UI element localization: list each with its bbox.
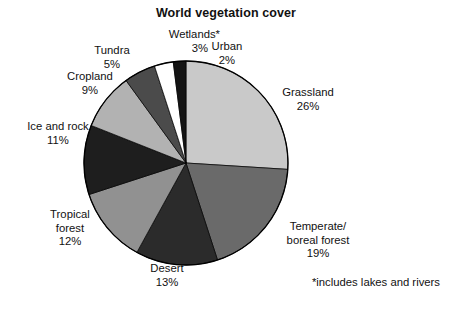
slice-label-cropland-name: Cropland [52,70,128,84]
footnote: *includes lakes and rivers [312,276,440,288]
slice-label-ice-and-rock-name: Ice and rock [8,120,108,134]
slice-label-tropical-forest-line2: forest [28,222,112,236]
slice-label-tundra-name: Tundra [82,44,142,58]
slice-label-tropical-forest-line1: Tropical [28,208,112,222]
pie-slice-grassland[interactable] [186,61,288,169]
slice-label-tundra: Tundra 5% [82,44,142,71]
slice-label-tropical-forest: Tropical forest 12% [28,208,112,249]
slice-label-temperate-boreal-forest-line2: boreal forest [258,234,378,248]
slice-label-ice-and-rock-value: 11% [8,134,108,148]
slice-label-desert: Desert 13% [128,262,206,289]
slice-label-grassland: Grassland 26% [262,86,354,113]
slice-label-urban-name: Urban [196,40,258,54]
slice-label-temperate-boreal-forest-line1: Temperate/ [258,220,378,234]
slice-label-urban: Urban 2% [196,40,258,67]
slice-label-tropical-forest-value: 12% [28,235,112,249]
slice-label-cropland: Cropland 9% [52,70,128,97]
slice-label-temperate-boreal-forest-value: 19% [258,247,378,261]
page-title: World vegetation cover [0,6,452,20]
slice-label-grassland-name: Grassland [262,86,354,100]
slice-label-desert-value: 13% [128,276,206,290]
slice-label-tundra-value: 5% [82,58,142,72]
slice-label-ice-and-rock: Ice and rock 11% [8,120,108,147]
slice-label-cropland-value: 9% [52,84,128,98]
slice-label-grassland-value: 26% [262,100,354,114]
slice-label-urban-value: 2% [196,54,258,68]
slice-label-desert-name: Desert [128,262,206,276]
chart-canvas: World vegetation cover Wetlands* 3% Urba… [0,0,452,310]
slice-label-temperate-boreal-forest: Temperate/ boreal forest 19% [258,220,378,261]
